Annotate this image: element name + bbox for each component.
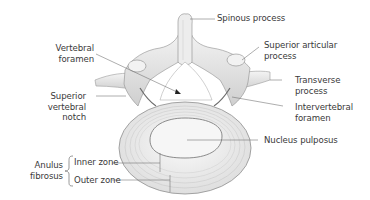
label-vertebral-foramen: Vertebral foramen: [40, 43, 94, 64]
label-superior-articular-process: Superior articular process: [264, 40, 337, 61]
label-nucleus-pulposus: Nucleus pulposus: [264, 135, 338, 146]
label-outer-zone: Outer zone: [74, 175, 121, 186]
label-transverse-process: Transverse process: [295, 75, 340, 96]
vertebra-diagram: Spinous process Superior articular proce…: [0, 0, 370, 200]
vertebral-arch: [95, 14, 270, 106]
label-anulus-fibrosus: Anulus fibrosus: [14, 160, 63, 181]
label-intervertebral-foramen: Intervertebral foramen: [295, 102, 353, 123]
label-spinous-process: Spinous process: [217, 13, 285, 24]
nucleus-shape: [150, 118, 222, 158]
label-superior-vertebral-notch: Superior vertebral notch: [30, 91, 86, 123]
brace-icon: [65, 156, 73, 186]
label-inner-zone: Inner zone: [74, 157, 118, 168]
